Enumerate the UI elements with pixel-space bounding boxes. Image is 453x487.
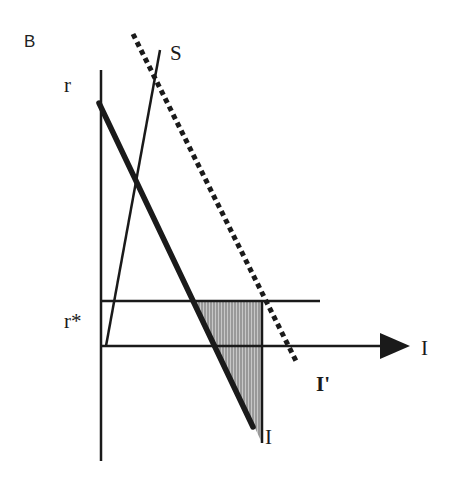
diagram-canvas: B r r* S I I' I — [0, 0, 453, 487]
investment-curve — [99, 103, 253, 427]
investment-shifted-label: I' — [316, 372, 330, 396]
r-axis-label: r — [64, 73, 71, 97]
arrowhead-icon — [380, 333, 410, 359]
i-axis-label: I — [421, 336, 428, 360]
r-star-label: r* — [64, 309, 82, 333]
investment-curve-label: I — [265, 425, 272, 449]
saving-curve-label: S — [170, 41, 182, 65]
panel-label: B — [24, 32, 35, 51]
